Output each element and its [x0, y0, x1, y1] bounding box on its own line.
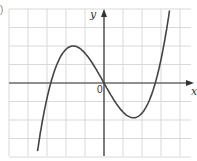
x-axis-label: x — [191, 86, 197, 97]
origin-label: 0 — [97, 85, 103, 95]
y-axis-label: y — [90, 9, 96, 20]
y-axis-arrow-icon — [101, 9, 107, 17]
cubic-graph — [0, 0, 197, 161]
